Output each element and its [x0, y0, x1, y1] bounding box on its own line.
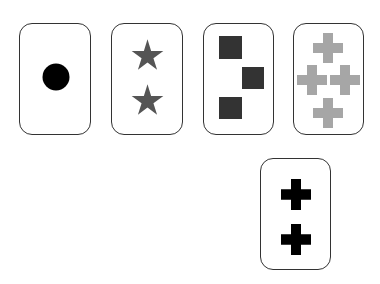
cross-icon	[297, 65, 327, 95]
cross-icon	[313, 33, 343, 63]
star-icon	[131, 39, 164, 71]
card-three-squares[interactable]	[203, 23, 274, 135]
circle-icon	[42, 63, 70, 91]
square-icon	[219, 36, 242, 59]
cross-icon	[281, 179, 311, 210]
cross-icon	[330, 65, 360, 95]
card-four-crosses[interactable]	[293, 23, 364, 135]
card-two-stars[interactable]	[111, 23, 183, 135]
card-two-crosses[interactable]	[260, 158, 331, 270]
square-icon	[242, 67, 264, 89]
square-icon	[219, 97, 242, 119]
star-icon	[131, 84, 164, 116]
cross-icon	[281, 224, 311, 255]
cross-icon	[313, 98, 343, 128]
card-one-circle[interactable]	[19, 23, 91, 135]
